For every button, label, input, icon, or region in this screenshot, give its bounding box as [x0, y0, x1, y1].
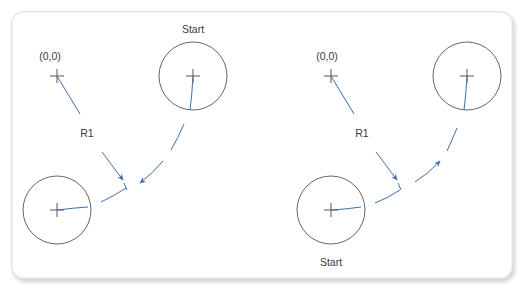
right-diagram: (0,0) R1 Start: [297, 42, 501, 268]
left-diagram: (0,0) R1 Start: [23, 23, 227, 244]
radius-label: R1: [355, 127, 369, 139]
arc-path-diagram: (0,0) R1 Start: [0, 0, 525, 292]
radius-line-upper: [331, 76, 354, 114]
center-cross-icon: [50, 203, 64, 217]
origin-label: (0,0): [316, 50, 338, 62]
origin-label: (0,0): [39, 50, 61, 62]
radius-line-upper: [57, 76, 80, 114]
arc-path: [58, 76, 193, 210]
start-label: Start: [182, 23, 204, 35]
radius-line-lower-arrow: [102, 152, 123, 180]
arc-path: [332, 76, 467, 210]
radius-label: R1: [80, 127, 94, 139]
radius-line-lower-arrow: [376, 152, 397, 180]
start-label: Start: [320, 256, 342, 268]
